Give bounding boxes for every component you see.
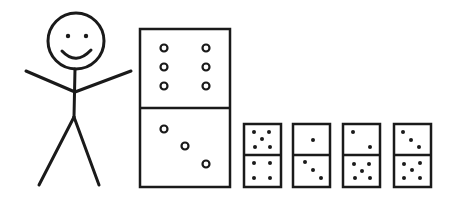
left-arm [26, 71, 75, 92]
small-domino-4 [394, 124, 431, 187]
left-leg [39, 117, 74, 185]
stick-figure [26, 13, 131, 185]
right-leg [74, 117, 99, 185]
right-eye [84, 34, 88, 38]
smile [62, 50, 91, 58]
small-domino-1 [244, 124, 281, 187]
scene [0, 0, 454, 204]
stick-figure-head [48, 13, 104, 69]
small-domino-2 [293, 124, 330, 187]
left-eye [66, 34, 70, 38]
large-domino [140, 29, 230, 187]
right-arm [75, 71, 131, 92]
small-domino-3 [343, 124, 380, 187]
